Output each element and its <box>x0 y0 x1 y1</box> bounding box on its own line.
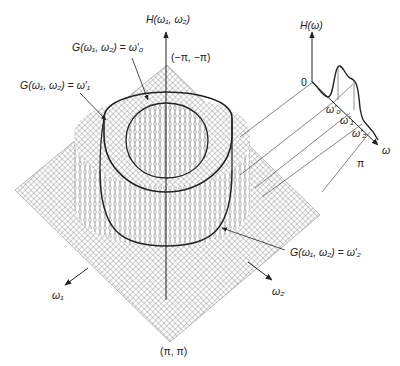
contour-label-w2: G(ω₁, ω₂) = ω′₂ <box>290 247 361 258</box>
corner-top-label: (−π, −π) <box>171 52 211 63</box>
w1-axis <box>65 268 88 285</box>
inset-x-label: ω <box>382 145 390 156</box>
axis-w2-label: ω₂ <box>272 286 284 297</box>
contour-label-w1: G(ω₁, ω₂) = ω′₁ <box>20 80 90 91</box>
inset-tick-w1: ω′₁ <box>340 115 353 126</box>
main-axis-label: H(ω₁, ω₂) <box>146 14 190 25</box>
contour-label-w0: G(ω₁, ω₂) = ω′₀ <box>72 42 143 53</box>
inset-tick-pi: π <box>357 158 364 169</box>
inset-origin-label: 0 <box>301 77 307 88</box>
axis-w1-label: ω₁ <box>52 290 64 301</box>
inset-response-curve <box>312 66 378 140</box>
inset-y-label: H(ω) <box>300 20 323 31</box>
corner-bottom-label: (π, π) <box>160 346 187 357</box>
inset-tick-w0: ω′₀ <box>326 104 341 115</box>
inset-tick-w2: ω′₂ <box>352 128 366 139</box>
inset-plot <box>312 32 378 145</box>
